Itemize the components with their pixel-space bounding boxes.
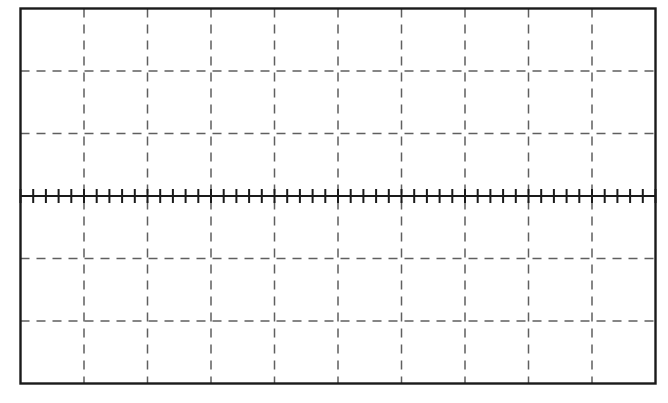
graticule-figure: Blank oscilloscope graticule: 10 horizon… bbox=[0, 0, 668, 403]
graticule-plot-area bbox=[0, 0, 668, 403]
